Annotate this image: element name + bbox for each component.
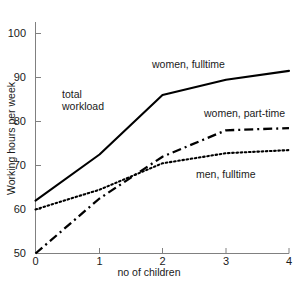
annotation-women-part-time: women, part-time bbox=[204, 107, 285, 119]
y-tick-label-100: 100 bbox=[2, 28, 26, 39]
chart-figure: 100 90 80 70 60 50 0 1 2 3 4 Working hou… bbox=[0, 0, 298, 284]
x-axis-ticks bbox=[36, 248, 290, 254]
y-axis-ticks bbox=[36, 34, 42, 254]
plot-area bbox=[0, 0, 298, 284]
annotation-women-fulltime: women, fulltime bbox=[152, 58, 225, 70]
x-tick-label-4: 4 bbox=[280, 256, 298, 267]
y-tick-label-60: 60 bbox=[2, 204, 26, 215]
annotation-total-workload: total workload bbox=[62, 88, 104, 112]
y-tick-label-50: 50 bbox=[2, 248, 26, 259]
x-axis-title: no of children bbox=[0, 267, 298, 278]
series-line-women-part-time bbox=[36, 128, 290, 253]
annotation-men-fulltime: men, fulltime bbox=[196, 168, 256, 180]
x-tick-label-1: 1 bbox=[91, 256, 109, 267]
x-tick-label-0: 0 bbox=[27, 256, 45, 267]
x-tick-label-3: 3 bbox=[217, 256, 235, 267]
y-axis-title: Working hours per week bbox=[6, 74, 17, 204]
